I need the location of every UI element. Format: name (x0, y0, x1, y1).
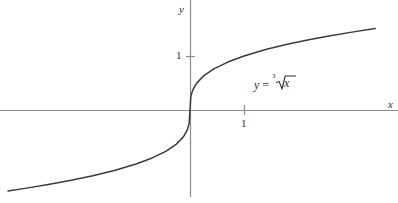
equation-lhs: y (254, 79, 262, 91)
x-axis-label: x (388, 99, 393, 110)
cube-root-curve (8, 29, 375, 191)
function-equation-annotation: y = 3 x (254, 74, 294, 91)
equation-equals-sign: = (262, 79, 272, 91)
x-axis-tick-label-1: 1 (241, 118, 247, 129)
plot-canvas (0, 0, 398, 203)
cube-root-function-plot: y x 1 1 y = 3 x (0, 0, 398, 203)
y-axis-label: y (179, 4, 184, 15)
radicand: x (284, 77, 289, 89)
radical-sign-icon: 3 x (272, 74, 294, 89)
y-axis-tick-label-1: 1 (176, 50, 182, 61)
radical-index: 3 (272, 73, 276, 80)
